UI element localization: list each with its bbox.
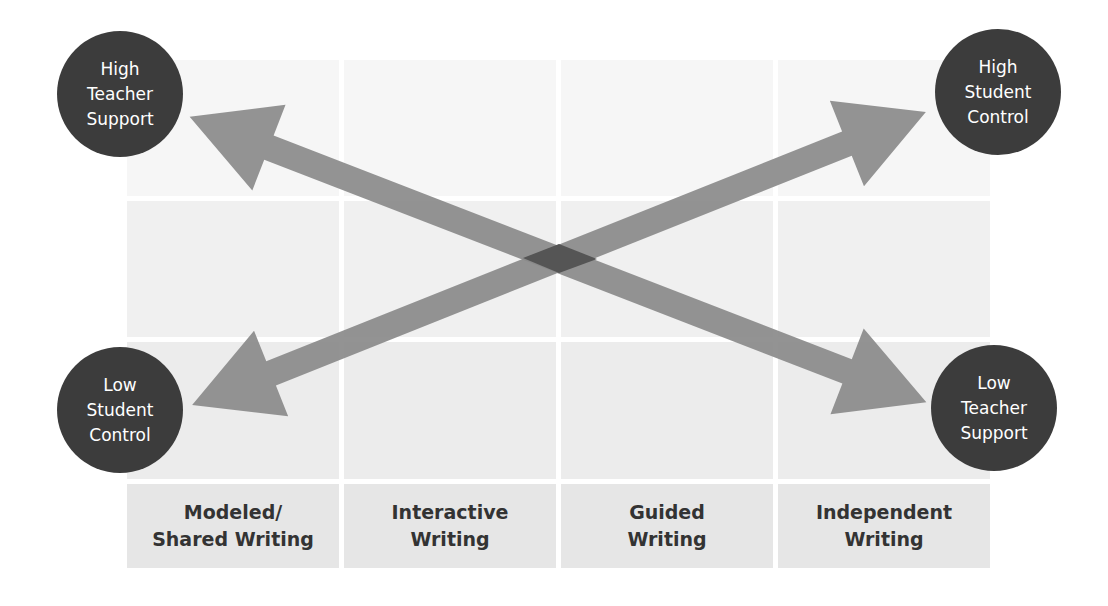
corner-low-teacher-support: Low Teacher Support [931, 345, 1057, 471]
corner-low-student-control: Low Student Control [57, 347, 183, 473]
corner-label: Low Student Control [87, 373, 154, 448]
corner-label: High Student Control [965, 55, 1032, 130]
corner-label: High Teacher Support [86, 57, 153, 132]
corner-high-teacher-support: High Teacher Support [57, 31, 183, 157]
corner-high-student-control: High Student Control [935, 29, 1061, 155]
corner-label: Low Teacher Support [960, 371, 1027, 446]
